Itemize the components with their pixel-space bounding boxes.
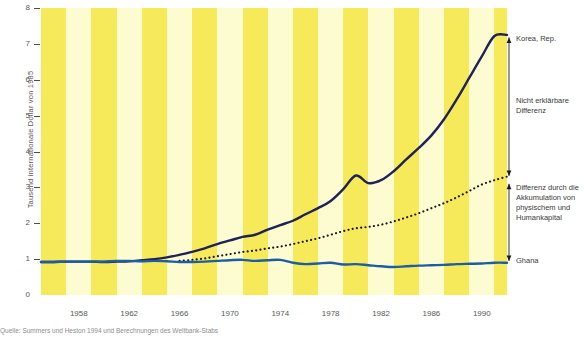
annotation-unexplained-line1: Nicht erklärbare — [516, 96, 582, 106]
annotation-accum-line4: Humankapital — [516, 213, 584, 223]
y-axis-tick-label: 5 — [0, 111, 30, 120]
source-note: Quelle: Summers und Heston 1994 und Bere… — [0, 327, 218, 334]
x-axis-tick-label: 1982 — [361, 309, 401, 318]
annotation-korea: Korea, Rep. — [516, 34, 556, 44]
y-axis-tick — [34, 259, 40, 260]
y-axis-tick — [34, 116, 40, 117]
background-stripe — [41, 8, 66, 295]
y-axis-tick-label: 3 — [0, 182, 30, 191]
x-axis-tick-label: 1974 — [260, 309, 300, 318]
annotation-ghana: Ghana — [516, 256, 539, 266]
background-stripe — [91, 8, 116, 295]
y-axis-tick-label: 4 — [0, 147, 30, 156]
background-stripe — [494, 8, 507, 295]
y-axis-tick-label: 0 — [0, 290, 30, 299]
y-axis-tick — [34, 223, 40, 224]
annotation-korea-label: Korea, Rep. — [516, 34, 556, 43]
x-axis-tick-label: 1978 — [311, 309, 351, 318]
y-axis-tick — [34, 187, 40, 188]
y-axis-tick-label: 6 — [0, 75, 30, 84]
x-axis-tick-label: 1962 — [109, 309, 149, 318]
annotation-accum-line3: physischem und — [516, 203, 584, 213]
arrow-accumulation-difference — [507, 184, 512, 261]
x-axis-tick-label: 1990 — [462, 309, 502, 318]
background-stripe — [444, 8, 469, 295]
arrow-unexplained-difference — [507, 37, 512, 175]
y-axis-tick — [34, 44, 40, 45]
x-axis-tick-label: 1970 — [210, 309, 250, 318]
y-axis-tick-label: 2 — [0, 218, 30, 227]
y-axis-tick-label: 8 — [0, 3, 30, 12]
x-axis-tick-label: 1958 — [59, 309, 99, 318]
y-axis-tick — [34, 8, 40, 9]
y-axis-tick — [34, 80, 40, 81]
annotation-unexplained-difference: Nicht erklärbare Differenz — [516, 96, 582, 116]
chart-root: Tausend internationale Dollar von 1985 0… — [0, 0, 586, 339]
annotation-accumulation-difference: Differenz durch die Akkumulation von phy… — [516, 183, 584, 224]
annotation-accum-line2: Akkumulation von — [516, 193, 584, 203]
y-axis-tick-label: 7 — [0, 39, 30, 48]
x-axis-tick-label: 1986 — [411, 309, 451, 318]
background-stripe — [293, 8, 318, 295]
difference-arrows — [507, 37, 512, 261]
annotation-unexplained-line2: Differenz — [516, 106, 582, 116]
background-stripe — [192, 8, 217, 295]
x-axis-tick-label: 1966 — [160, 309, 200, 318]
annotation-ghana-label: Ghana — [516, 256, 539, 265]
annotation-accum-line1: Differenz durch die — [516, 183, 584, 193]
y-axis-tick-label: 1 — [0, 254, 30, 263]
background-stripe — [343, 8, 368, 295]
y-axis-tick — [34, 152, 40, 153]
background-stripe — [243, 8, 268, 295]
background-stripe — [142, 8, 167, 295]
background-stripe — [394, 8, 419, 295]
background-stripes — [41, 8, 507, 295]
plot-area — [41, 8, 507, 295]
